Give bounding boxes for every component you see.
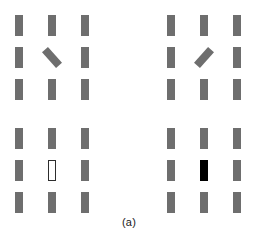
distractor-bar <box>15 160 23 181</box>
stimulus-panel-top-left <box>15 15 112 115</box>
distractor-bar <box>167 15 175 36</box>
figure-caption: (a) <box>0 216 258 228</box>
distractor-bar <box>81 160 89 181</box>
distractor-bar <box>81 128 89 149</box>
target-bar-tilt-right <box>42 47 62 68</box>
distractor-bar <box>200 128 208 149</box>
distractor-bar <box>15 128 23 149</box>
distractor-bar <box>81 15 89 36</box>
distractor-bar <box>167 47 175 68</box>
stimulus-panel-bottom-right <box>167 128 258 228</box>
distractor-bar <box>48 192 56 213</box>
distractor-bar <box>81 192 89 213</box>
distractor-bar <box>15 47 23 68</box>
stimulus-panel-top-right <box>167 15 258 115</box>
distractor-bar <box>167 79 175 100</box>
distractor-bar <box>233 160 241 181</box>
distractor-bar <box>167 128 175 149</box>
distractor-bar <box>167 192 175 213</box>
distractor-bar <box>167 160 175 181</box>
target-bar-white-outline <box>48 160 56 181</box>
distractor-bar <box>15 15 23 36</box>
distractor-bar <box>233 15 241 36</box>
figure-panel-a: (a) <box>0 0 258 239</box>
distractor-bar <box>48 128 56 149</box>
distractor-bar <box>81 79 89 100</box>
target-bar-black-filled <box>200 160 208 181</box>
distractor-bar <box>200 192 208 213</box>
distractor-bar <box>81 47 89 68</box>
distractor-bar <box>233 47 241 68</box>
distractor-bar <box>233 128 241 149</box>
distractor-bar <box>15 192 23 213</box>
distractor-bar <box>233 79 241 100</box>
stimulus-panel-bottom-left <box>15 128 112 228</box>
distractor-bar <box>233 192 241 213</box>
distractor-bar <box>200 15 208 36</box>
target-bar-tilt-left <box>194 47 214 68</box>
distractor-bar <box>48 15 56 36</box>
distractor-bar <box>48 79 56 100</box>
distractor-bar <box>15 79 23 100</box>
distractor-bar <box>200 79 208 100</box>
